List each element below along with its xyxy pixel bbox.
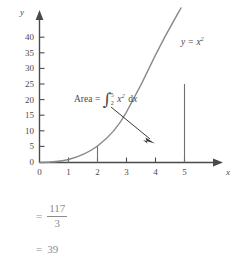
y-tick-label-5: 5 bbox=[18, 142, 34, 151]
area-annotation: Area = ∫ 5 2 x2 dx bbox=[74, 92, 137, 105]
x-tick-label-2: 2 bbox=[92, 168, 104, 177]
figure-area-under-curve: y x 0 5 10 15 20 25 30 35 40 0 1 2 3 4 5… bbox=[0, 0, 237, 190]
integral-expression: ∫ 5 2 bbox=[103, 92, 114, 105]
curve-label-exponent: 2 bbox=[201, 35, 204, 42]
differential-variable: x bbox=[133, 94, 137, 104]
curve-y-equals-x-squared bbox=[40, 8, 182, 163]
area-annotation-equals: = bbox=[95, 94, 100, 104]
equation-block: = 117 3 = 39 bbox=[0, 195, 237, 270]
integrand-exponent: 2 bbox=[121, 92, 124, 99]
y-tick-label-35: 35 bbox=[18, 49, 34, 58]
x-tick-marks bbox=[69, 158, 185, 163]
x-tick-label-4: 4 bbox=[150, 168, 162, 177]
x-tick-label-5: 5 bbox=[179, 168, 191, 177]
equation-equals-sign-1: = bbox=[36, 210, 42, 222]
y-tick-label-10: 10 bbox=[18, 127, 34, 136]
curve-label-equals: = bbox=[188, 37, 194, 47]
x-tick-label-3: 3 bbox=[121, 168, 133, 177]
equation-equals-sign-2: = bbox=[36, 243, 42, 255]
y-tick-label-40: 40 bbox=[18, 33, 34, 42]
equation-result-value: 39 bbox=[47, 243, 58, 255]
x-axis-arrowhead bbox=[213, 159, 223, 167]
curve-label: y = x2 bbox=[181, 35, 204, 47]
y-tick-label-20: 20 bbox=[18, 96, 34, 105]
integral-upper-limit: 5 bbox=[111, 92, 114, 98]
x-tick-label-1: 1 bbox=[63, 168, 75, 177]
fraction-denominator: 3 bbox=[53, 217, 63, 230]
y-tick-label-25: 25 bbox=[18, 80, 34, 89]
y-axis-label: y bbox=[20, 7, 24, 17]
equation-line-fraction: = 117 3 bbox=[36, 203, 67, 229]
y-tick-label-0: 0 bbox=[18, 158, 34, 167]
x-axis-label: x bbox=[226, 167, 230, 177]
y-tick-marks bbox=[40, 37, 45, 146]
x-tick-label-0: 0 bbox=[34, 168, 46, 177]
differential: dx bbox=[128, 94, 137, 104]
curve-label-lhs: y bbox=[181, 37, 185, 47]
annotation-leader-line bbox=[111, 107, 150, 139]
integrand: x2 bbox=[117, 92, 124, 104]
y-tick-label-30: 30 bbox=[18, 64, 34, 73]
y-tick-label-15: 15 bbox=[18, 111, 34, 120]
fraction-numerator: 117 bbox=[47, 203, 67, 216]
equation-line-value: = 39 bbox=[36, 243, 58, 255]
y-axis-arrowhead bbox=[36, 10, 44, 20]
fraction-117-over-3: 117 3 bbox=[47, 203, 67, 229]
integral-limits: 5 2 bbox=[111, 92, 114, 105]
integral-lower-limit: 2 bbox=[111, 100, 114, 106]
area-annotation-word: Area bbox=[74, 94, 92, 104]
